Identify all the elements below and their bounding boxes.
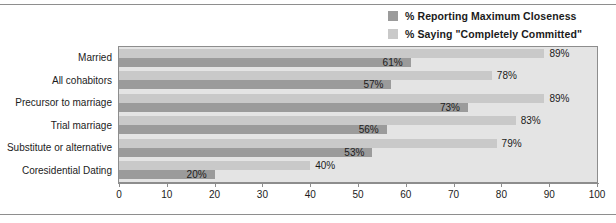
bar-value-committed: 83% <box>521 116 541 126</box>
bar-value-closeness: 53% <box>344 148 364 158</box>
bar-value-committed: 40% <box>315 161 335 171</box>
bar-value-committed: 79% <box>502 139 522 149</box>
legend-swatch-closeness <box>388 11 398 21</box>
bar-value-committed: 89% <box>549 49 569 59</box>
bar-committed <box>119 49 544 58</box>
legend-label-committed: % Saying "Completely Committed" <box>405 28 582 40</box>
category-label: Married <box>0 52 112 63</box>
x-axis-tick-label: 30 <box>257 189 268 200</box>
x-axis-tick-label: 10 <box>161 189 172 200</box>
x-axis-tick-label: 90 <box>544 189 555 200</box>
category-label: Coresidential Dating <box>0 165 112 176</box>
bar-value-closeness: 20% <box>187 170 207 180</box>
bar-committed <box>119 139 497 148</box>
x-axis-tick <box>406 183 407 187</box>
legend-item-committed: % Saying "Completely Committed" <box>388 26 616 41</box>
x-axis-tick-label: 100 <box>589 189 606 200</box>
legend-label-closeness: % Reporting Maximum Closeness <box>405 10 577 22</box>
x-axis-tick-label: 40 <box>305 189 316 200</box>
x-axis-tick <box>215 183 216 187</box>
legend-item-closeness: % Reporting Maximum Closeness <box>388 8 616 23</box>
x-axis-tick-label: 20 <box>209 189 220 200</box>
category-label: Precursor to marriage <box>0 97 112 108</box>
category-label: All cohabitors <box>0 75 112 86</box>
bar-committed <box>119 161 310 170</box>
category-label: Substitute or alternative <box>0 142 112 153</box>
x-axis-tick <box>358 183 359 187</box>
bar-closeness <box>119 125 387 134</box>
x-axis-tick-label: 70 <box>448 189 459 200</box>
x-axis-tick <box>262 183 263 187</box>
x-axis: 0102030405060708090100 <box>118 183 599 213</box>
bar-committed <box>119 71 492 80</box>
legend-swatch-committed <box>388 29 398 39</box>
category-axis-labels: MarriedAll cohabitorsPrecursor to marria… <box>0 47 112 182</box>
bar-value-closeness: 73% <box>440 103 460 113</box>
x-axis-tick <box>549 183 550 187</box>
x-axis-tick <box>167 183 168 187</box>
x-axis-tick <box>597 183 598 187</box>
x-axis-tick-label: 0 <box>116 189 122 200</box>
bar-committed <box>119 116 516 125</box>
x-axis-tick <box>119 183 120 187</box>
bar-value-closeness: 56% <box>359 125 379 135</box>
bar-value-closeness: 61% <box>383 58 403 68</box>
bar-value-closeness: 57% <box>363 80 383 90</box>
x-axis-tick <box>310 183 311 187</box>
category-label: Trial marriage <box>0 120 112 131</box>
bottom-divider-rule <box>0 214 616 215</box>
bar-committed <box>119 94 544 103</box>
bar-closeness <box>119 148 372 157</box>
x-axis-tick-label: 60 <box>400 189 411 200</box>
x-axis-tick-label: 80 <box>496 189 507 200</box>
bar-value-committed: 78% <box>497 71 517 81</box>
top-divider-rule <box>0 4 616 5</box>
bar-closeness <box>119 103 468 112</box>
x-axis-tick <box>454 183 455 187</box>
chart-page: % Reporting Maximum Closeness % Saying "… <box>0 0 616 223</box>
bar-value-committed: 89% <box>549 94 569 104</box>
x-axis-tick-label: 50 <box>352 189 363 200</box>
chart-legend: % Reporting Maximum Closeness % Saying "… <box>388 8 616 44</box>
bar-closeness <box>119 80 391 89</box>
bars-layer: 89%61%78%57%89%73%83%56%79%53%40%20% <box>119 47 597 182</box>
x-axis-tick <box>501 183 502 187</box>
bar-closeness <box>119 58 411 67</box>
